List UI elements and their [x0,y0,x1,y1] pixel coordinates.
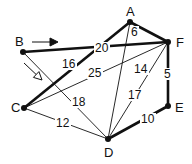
weighted-graph-diagram: 166142018251217510 ABCDEF [0,0,192,164]
edge-weight-A-D: 14 [134,62,148,76]
edge-weight-F-E: 5 [164,67,171,81]
node-label-C: C [11,100,20,115]
edge-weight-A-C: 16 [62,57,76,71]
edge-weight-B-D: 18 [72,95,86,109]
edge-weight-D-E: 10 [141,112,155,126]
edge-weight-A-F: 6 [131,25,138,39]
node-label-D: D [104,145,113,160]
node-label-B: B [15,34,24,49]
node-E [165,103,171,109]
edge-weight-C-D: 12 [56,116,70,130]
edge-weight-C-F: 25 [88,66,102,80]
node-C [21,105,27,111]
graph-nodes: ABCDEF [11,4,184,160]
node-B [20,49,26,55]
edge-weight-labels: 166142018251217510 [55,25,172,130]
edge-weight-B-F: 20 [95,41,109,55]
node-label-E: E [175,100,184,115]
node-A [127,19,133,25]
node-F [165,39,171,45]
direction-arrow-filled-head-icon [50,38,58,46]
node-label-A: A [126,4,135,19]
node-D [105,136,111,142]
direction-arrow-hollow-shaft [24,63,36,75]
node-label-F: F [176,35,184,50]
edge-weight-D-F: 17 [128,88,142,102]
edge-D-E [108,106,168,139]
direction-arrows [24,38,58,80]
